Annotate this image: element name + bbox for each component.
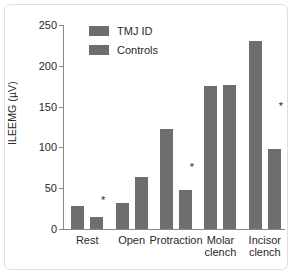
significance-star-rest: * <box>101 194 105 205</box>
y-tick-label-150: 150 <box>39 101 57 112</box>
y-tick-label-250: 250 <box>39 20 57 31</box>
y-axis-label: ILEEMG (µV) <box>6 25 20 145</box>
y-axis-line <box>63 25 64 229</box>
bar-protraction-tmj-id <box>160 129 173 229</box>
bar-molar-clench-controls <box>223 85 236 229</box>
significance-star-protraction: * <box>190 161 194 172</box>
bar-protraction-controls <box>179 190 192 229</box>
chart-figure: ILEEMG (µV) TMJ ID Controls 050100150200… <box>0 0 294 275</box>
y-tick-label-50: 50 <box>45 183 57 194</box>
y-tick-100 <box>59 147 63 148</box>
bar-rest-tmj-id <box>71 206 84 229</box>
x-label-incisor-clench: Incisor clench <box>225 235 294 258</box>
y-tick-label-100: 100 <box>39 142 57 153</box>
x-axis-line <box>63 229 285 230</box>
bar-molar-clench-tmj-id <box>204 86 217 229</box>
y-tick-50 <box>59 188 63 189</box>
y-tick-0 <box>59 229 63 230</box>
y-tick-label-0: 0 <box>51 224 57 235</box>
y-tick-250 <box>59 25 63 26</box>
y-tick-label-200: 200 <box>39 60 57 71</box>
bar-incisor-clench-tmj-id <box>249 41 262 229</box>
bar-open-tmj-id <box>116 203 129 229</box>
bar-open-controls <box>135 177 148 229</box>
y-tick-150 <box>59 107 63 108</box>
significance-star-incisor-clench: * <box>279 100 283 111</box>
y-tick-200 <box>59 66 63 67</box>
bar-rest-controls <box>90 217 103 229</box>
plot-area: 050100150200250 *** RestOpenProtractionM… <box>63 25 285 229</box>
bar-incisor-clench-controls <box>268 149 281 229</box>
